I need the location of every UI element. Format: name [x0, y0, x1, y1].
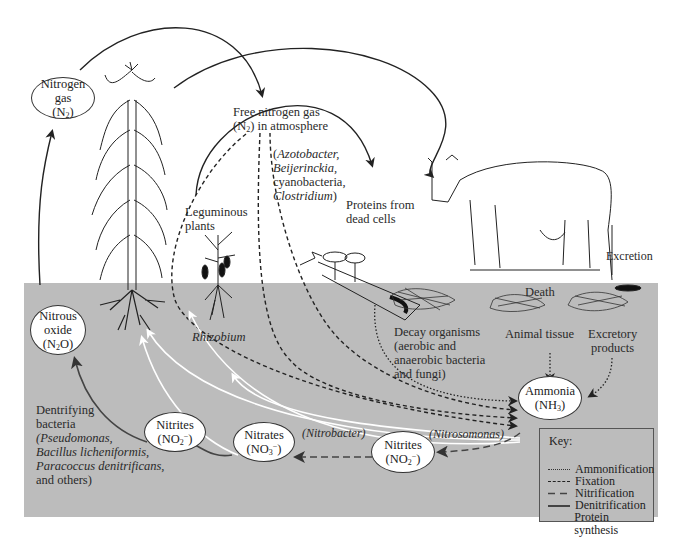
decay-line3: anaerobic bacteria [394, 353, 485, 367]
excretory-products-label: Excretory products [588, 327, 637, 355]
nitrites-left-formula-b: ) [188, 432, 192, 446]
cow [428, 155, 641, 291]
excretory-line1: Excretory [588, 327, 637, 341]
nitrites-left-node: Nitrites (NO2−) [144, 412, 206, 452]
decay-organisms-label: Decay organisms (aerobic and anaerobic b… [394, 325, 485, 381]
fixers-azotobacter: Azotobacter, [277, 147, 339, 161]
nitrates-node: Nitrates (NO3−) [233, 422, 295, 462]
decay-line1: Decay organisms [394, 325, 485, 339]
nitrosomonas-label: (Nitrosomonas) [429, 427, 504, 441]
nitrogen-gas-formula-a: (N [52, 105, 65, 119]
nitrous-oxide-formula-a: (N [43, 337, 56, 351]
nitrogen-fixers-label: (Azotobacter, Beijerinckia, cyanobacteri… [273, 147, 346, 203]
leguminous-line1: Leguminous [185, 205, 248, 219]
nitrates-line1: Nitrates [244, 428, 284, 442]
fixers-cyanobacteria: cyanobacteria, [273, 175, 346, 189]
solid-dark-line-icon [548, 505, 570, 507]
nitrites-right-formula-a: (NO [386, 452, 408, 466]
legume-plant [202, 232, 235, 320]
animal-tissue-label: Animal tissue [505, 327, 574, 341]
free-nitrogen-label: Free nitrogen gas (N2) in atmosphere [233, 105, 328, 133]
decay-scribbles [392, 288, 628, 312]
free-nitrogen-line2a: (N [233, 119, 246, 133]
nitrous-oxide-node: Nitrous oxide (N2O) [30, 305, 86, 355]
nitrous-oxide-line1: Nitrous [39, 309, 77, 323]
long-dashed-line-icon [548, 492, 570, 495]
free-nitrogen-line2b: ) in atmosphere [250, 119, 328, 133]
nitrobacter-text: (Nitrobacter) [302, 426, 366, 440]
nitrites-left-formula-a: (NO [158, 432, 180, 446]
denitrifying-line1: Dentrifying [36, 403, 164, 417]
denitrifying-bacteria-label: Dentrifying bacteria (Pseudomonas, Bacil… [36, 403, 164, 487]
key-label-protein-synthesis: Protein synthesis [574, 511, 653, 537]
denitrifying-line6: and others) [36, 473, 164, 487]
nitrogen-gas-formula-b: ) [70, 105, 74, 119]
nitrites-left-line1: Nitrites [156, 418, 194, 432]
nitrobacter-label: (Nitrobacter) [302, 426, 366, 440]
nitrogen-gas-node: Nitrogen gas (N2) [31, 77, 95, 119]
death-label: Death [525, 285, 555, 299]
ammonia-formula-a: (NH [535, 398, 557, 412]
key-title: Key: [549, 435, 572, 448]
nitrogen-gas-line1: Nitrogen [41, 77, 85, 91]
atmosphere-arrows [39, 28, 446, 285]
fixers-clostridium: Clostridium [273, 189, 333, 203]
nitrates-formula-a: (NO [247, 442, 269, 456]
nitrites-right-node: Nitrites (NO2−) [371, 431, 435, 473]
nitrous-oxide-line2: oxide [44, 323, 72, 337]
excretion-label: Excretion [606, 249, 653, 263]
denitrifying-line4: Bacillus licheniformis, [36, 445, 149, 459]
denitrifying-line5: Paracoccus denitrificans, [36, 459, 164, 473]
leguminous-line2: plants [185, 219, 248, 233]
free-nitrogen-line1: Free nitrogen gas [233, 105, 328, 119]
decay-line2: (aerobic and [394, 339, 485, 353]
denitrifying-line3: (Pseudomonas, [36, 431, 113, 445]
nitrosomonas-text: (Nitrosomonas) [429, 427, 504, 441]
solid-white-line-icon [548, 523, 569, 525]
rhizobium-label: Rhizobium [192, 330, 245, 344]
ammonia-formula-b: ) [561, 398, 565, 412]
key-item-protein-synthesis: Protein synthesis [548, 511, 653, 537]
proteins-label: Proteins from dead cells [346, 198, 414, 226]
corn-plant [92, 62, 167, 290]
short-dashed-line-icon [548, 481, 570, 482]
nitrites-right-line1: Nitrites [384, 438, 422, 452]
nitrates-formula-b: ) [277, 442, 281, 456]
dotted-line-icon [548, 469, 570, 470]
ammonia-line1: Ammonia [525, 384, 575, 398]
corn-roots [100, 290, 165, 330]
ammonia-node: Ammonia (NH3) [518, 376, 582, 420]
decay-line4: and fungi) [394, 367, 485, 381]
fixers-close: ) [333, 189, 337, 203]
nitrogen-gas-line2: gas [55, 91, 72, 105]
fixers-beijerinckia: Beijerinckia, [273, 161, 337, 175]
proteins-line1: Proteins from [346, 198, 414, 212]
nitrites-right-formula-b: ) [416, 452, 420, 466]
nitrous-oxide-formula-b: O) [60, 337, 73, 351]
legend-key: Key: Ammonification Fixation Nitrificati… [539, 428, 654, 522]
leguminous-plants-label: Leguminous plants [185, 205, 248, 233]
rhizobium-text: Rhizobium [192, 330, 245, 344]
excretory-line2: products [588, 341, 637, 355]
proteins-line2: dead cells [346, 212, 414, 226]
